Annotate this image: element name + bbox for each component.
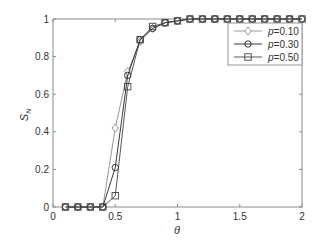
x-tick-label: 0.5 bbox=[108, 211, 122, 222]
y-tick-label: 0 bbox=[43, 202, 49, 213]
y-axis-label: SN bbox=[18, 108, 32, 121]
x-tick-label: 1 bbox=[175, 211, 181, 222]
y-tick-label: 0.8 bbox=[35, 51, 49, 62]
x-tick-label: 0 bbox=[50, 211, 56, 222]
x-axis-label: θ bbox=[174, 224, 180, 236]
y-tick-label: 0.4 bbox=[35, 126, 49, 137]
y-tick-label: 1 bbox=[43, 14, 49, 25]
x-tick-label: 1.5 bbox=[233, 211, 247, 222]
diamond-marker bbox=[112, 124, 118, 132]
line-chart: 00.511.5200.20.40.60.81 p=0.10p=0.30p=0.… bbox=[0, 0, 322, 249]
x-tick-label: 2 bbox=[299, 211, 305, 222]
legend-label: p=0.10 bbox=[267, 26, 299, 37]
legend-label: p=0.30 bbox=[267, 39, 299, 50]
legend-label: p=0.50 bbox=[267, 52, 299, 63]
svg-text:SN: SN bbox=[18, 108, 32, 121]
y-tick-label: 0.2 bbox=[35, 164, 49, 175]
legend: p=0.10p=0.30p=0.50 bbox=[228, 23, 302, 65]
y-tick-label: 0.6 bbox=[35, 89, 49, 100]
y-axis-label-subscript: N bbox=[25, 108, 32, 114]
